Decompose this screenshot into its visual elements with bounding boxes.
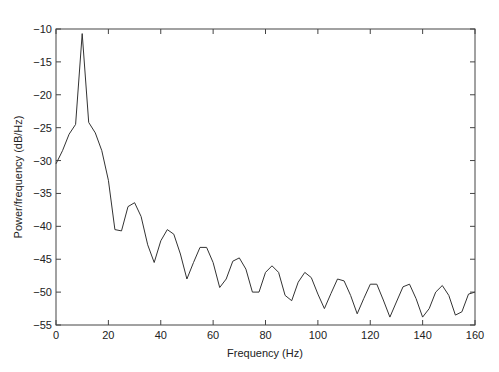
x-tick-label: 100 — [309, 329, 327, 341]
y-tick-label: −20 — [33, 89, 52, 101]
x-axis: 020406080100120140160 — [53, 29, 484, 341]
y-tick-label: −10 — [33, 23, 52, 35]
psd-line — [56, 34, 475, 318]
psd-chart: 020406080100120140160 −10−15−20−25−30−35… — [0, 0, 499, 372]
x-tick-label: 60 — [207, 329, 219, 341]
y-axis-label: Power/frequency (dB/Hz) — [12, 116, 24, 239]
y-tick-label: −45 — [33, 253, 52, 265]
y-tick-label: −50 — [33, 286, 52, 298]
x-tick-label: 40 — [155, 329, 167, 341]
y-tick-label: −35 — [33, 187, 52, 199]
y-tick-label: −25 — [33, 122, 52, 134]
x-tick-label: 120 — [361, 329, 379, 341]
x-tick-label: 140 — [413, 329, 431, 341]
plot-area — [56, 29, 475, 325]
y-tick-label: −55 — [33, 319, 52, 331]
x-tick-label: 0 — [53, 329, 59, 341]
x-tick-label: 20 — [102, 329, 114, 341]
plot-frame — [56, 29, 475, 325]
x-tick-label: 80 — [259, 329, 271, 341]
x-axis-label: Frequency (Hz) — [227, 347, 303, 359]
y-tick-label: −15 — [33, 56, 52, 68]
y-tick-label: −40 — [33, 220, 52, 232]
y-tick-label: −30 — [33, 155, 52, 167]
x-tick-label: 160 — [466, 329, 484, 341]
